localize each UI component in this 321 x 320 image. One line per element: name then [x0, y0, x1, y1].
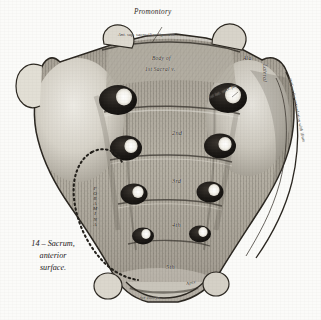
sacral-cornu-left	[94, 273, 122, 299]
caption-line-1: 14 – Sacrum,	[10, 238, 96, 250]
label-vertebra-3: 3rd	[172, 178, 181, 185]
label-vertebra-5: 5th	[166, 264, 175, 271]
foramen-left-1	[99, 85, 137, 115]
label-promontory: Promontory	[134, 8, 171, 16]
caption-line-3: surface.	[10, 262, 96, 274]
anatomical-plate: Promontory Ant. sup. sacro-iliac ligamen…	[0, 0, 321, 320]
ala-left-margin	[16, 64, 42, 108]
label-body-line2: 1st Sacral v.	[145, 66, 175, 72]
foramen-left-2	[110, 136, 142, 161]
label-foramina-vertical: FORAMINA	[93, 186, 97, 227]
label-lateral: Lateral	[262, 64, 268, 82]
foramen-left-3	[121, 184, 148, 205]
foramen-left-4	[132, 228, 154, 245]
foramen-right-3	[197, 182, 224, 203]
label-ala: Ala	[243, 55, 251, 61]
label-coccyx-note: for coccyx	[140, 296, 160, 301]
figure-caption: 14 – Sacrum, anterior surface.	[10, 238, 96, 274]
caption-line-2: anterior	[10, 250, 96, 262]
label-anterior-sacroiliac-ligament: Ant. sup. sacro-iliac ligament	[118, 33, 174, 38]
sacral-cornu-right	[203, 272, 229, 296]
label-body-line1: Body of	[152, 55, 171, 61]
foramen-right-2	[204, 134, 236, 159]
foramen-right-4	[189, 226, 211, 243]
label-vertebra-2: 2nd	[172, 130, 182, 137]
label-vertebra-4: 4th	[172, 222, 181, 229]
foramina-letter: A	[94, 222, 97, 227]
